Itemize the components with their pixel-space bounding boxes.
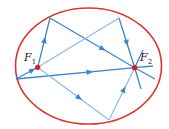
ray-F1-to-top-right: [38, 18, 119, 67]
ray-bottom-to-F2: [109, 68, 135, 120]
focus-label-F1: F1: [23, 51, 36, 66]
focus-label-F2: F2: [139, 51, 152, 66]
arrowhead-icon: [99, 45, 107, 53]
focus-point-F2: [132, 65, 137, 70]
arrowhead-icon: [123, 39, 130, 47]
ellipse-reflection-diagram: F1F2: [0, 0, 169, 129]
arrowhead-icon: [120, 85, 128, 93]
arrowhead-icon: [86, 69, 93, 75]
ray-F1-to-bottom: [38, 67, 109, 120]
ray-F2-ext-right: [135, 66, 153, 68]
